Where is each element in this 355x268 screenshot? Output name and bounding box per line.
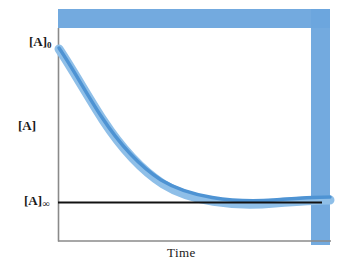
chart-figure: [A]0 [A] [A]∞ Time [0,0,355,268]
y-axis-final-label-text: [A] [24,193,42,208]
decorative-right-blue-band [311,9,330,245]
y-axis-initial-label-subscript: 0 [47,40,52,50]
decay-curve-halo [59,49,330,204]
decorative-top-blue-band [58,9,330,28]
y-axis-initial-label-text: [A] [29,34,47,49]
decay-curve [59,48,330,201]
plot-canvas [0,0,355,268]
x-axis-title: Time [167,246,196,259]
y-axis-final-label-subscript: ∞ [42,198,50,209]
y-axis-final-label: [A]∞ [24,194,50,209]
y-axis-title: [A] [18,119,36,132]
y-axis-initial-label: [A]0 [29,35,52,50]
